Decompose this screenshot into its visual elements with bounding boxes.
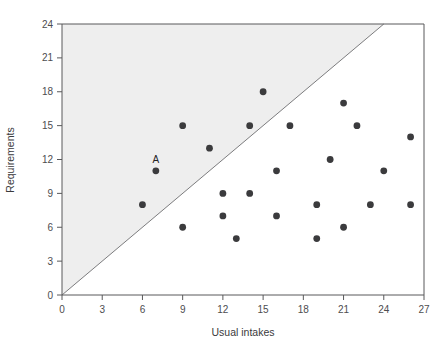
data-point: [152, 167, 159, 174]
data-point: [380, 167, 387, 174]
x-tick-label: 6: [140, 304, 146, 315]
x-axis-title: Usual intakes: [211, 326, 274, 338]
scatter-plot-figure: 036912151821242703691215182124 A Usual i…: [0, 0, 448, 355]
data-point: [246, 190, 253, 197]
data-point: [206, 145, 213, 152]
y-tick-label: 0: [47, 290, 53, 301]
y-tick-label: 12: [42, 154, 54, 165]
plot-canvas: 036912151821242703691215182124 A Usual i…: [0, 0, 448, 355]
data-point: [273, 213, 280, 220]
data-point-label-a: A: [153, 154, 160, 165]
y-tick-label: 24: [42, 19, 54, 30]
y-axis-title: Requirements: [4, 127, 16, 192]
x-tick-label: 21: [338, 304, 350, 315]
data-point: [246, 122, 253, 129]
x-tick-label: 12: [217, 304, 229, 315]
data-point: [327, 156, 334, 163]
x-tick-label: 9: [180, 304, 186, 315]
x-tick-label: 24: [378, 304, 390, 315]
data-point: [407, 134, 414, 141]
data-point: [287, 122, 294, 129]
x-tick-label: 18: [298, 304, 310, 315]
data-point: [367, 201, 374, 208]
data-point-labels: A: [153, 154, 160, 165]
y-tick-label: 6: [47, 222, 53, 233]
data-point: [139, 201, 146, 208]
data-point: [179, 224, 186, 231]
data-point: [273, 167, 280, 174]
data-point: [340, 224, 347, 231]
x-tick-label: 3: [99, 304, 105, 315]
x-tick-label: 15: [258, 304, 270, 315]
y-tick-label: 3: [47, 256, 53, 267]
data-point: [313, 235, 320, 242]
data-point: [219, 190, 226, 197]
data-point: [313, 201, 320, 208]
x-tick-label: 27: [418, 304, 430, 315]
data-point: [354, 122, 361, 129]
x-tick-label: 0: [59, 304, 65, 315]
data-point: [340, 100, 347, 107]
y-tick-label: 21: [42, 52, 54, 63]
y-tick-label: 18: [42, 86, 54, 97]
data-point: [260, 88, 267, 95]
data-point: [219, 213, 226, 220]
y-tick-label: 9: [47, 188, 53, 199]
y-tick-label: 15: [42, 120, 54, 131]
data-point: [179, 122, 186, 129]
data-point: [407, 201, 414, 208]
data-point: [233, 235, 240, 242]
